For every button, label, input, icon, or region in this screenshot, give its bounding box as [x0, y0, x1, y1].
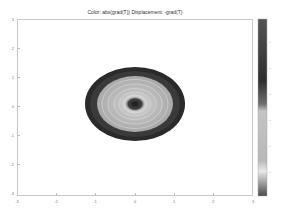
y-tick-label: 1: [4, 75, 14, 80]
colorbar-tick: –: [269, 170, 271, 174]
colorbar-tick: –: [269, 144, 271, 148]
x-tick-label: -3: [10, 199, 24, 204]
y-tick-mark: [17, 135, 20, 136]
x-tick-mark: [174, 193, 175, 196]
x-tick-label: -1: [88, 199, 102, 204]
x-tick-mark: [135, 193, 136, 196]
y-tick-label: -3: [4, 191, 14, 196]
y-tick-label: -1: [4, 133, 14, 138]
colorbar-tick: –: [269, 66, 271, 70]
y-tick-label: 2: [4, 46, 14, 51]
colorbar: [258, 19, 267, 196]
x-tick-label: 0: [128, 199, 142, 204]
y-tick-mark: [17, 48, 20, 49]
y-tick-label: -2: [4, 162, 14, 167]
x-tick-label: 3: [246, 199, 260, 204]
y-tick-mark: [17, 77, 20, 78]
heatmap-plot: [0, 0, 283, 209]
y-tick-mark: [17, 106, 20, 107]
y-tick-label: 0: [4, 104, 14, 109]
x-tick-label: 1: [167, 199, 181, 204]
x-tick-label: 2: [206, 199, 220, 204]
colorbar-tick: –: [269, 92, 271, 96]
colorbar-tick: –: [269, 118, 271, 122]
x-tick-mark: [95, 193, 96, 196]
colorbar-tick: –: [269, 40, 271, 44]
x-tick-label: -2: [49, 199, 63, 204]
y-tick-label: 3: [4, 17, 14, 22]
x-tick-mark: [213, 193, 214, 196]
x-tick-mark: [56, 193, 57, 196]
y-tick-mark: [17, 164, 20, 165]
